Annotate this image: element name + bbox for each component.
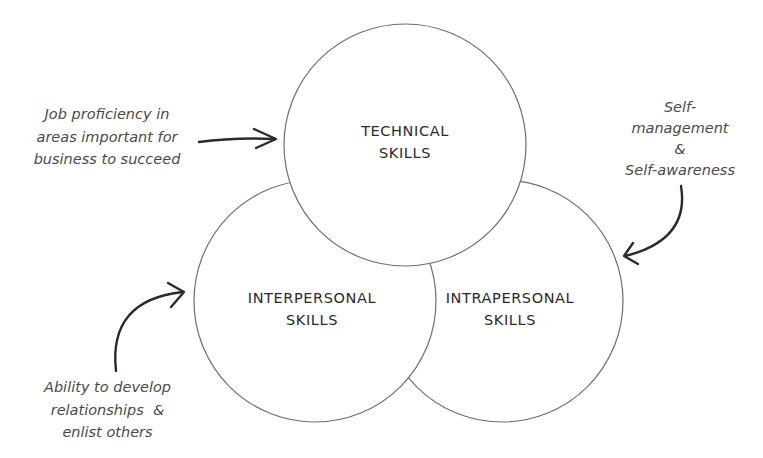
technical-annotation: Job proficiency in areas important for b… [22, 103, 192, 171]
interpersonal-note-line1: Ability to develop [15, 376, 200, 399]
technical-note-line1: Job proficiency in [22, 103, 192, 126]
intrapersonal-annotation: Self- management & Self-awareness [610, 97, 750, 181]
interpersonal-label-line2: SKILLS [222, 309, 402, 331]
interpersonal-note-line2: relationships & [15, 399, 200, 422]
technical-label-line1: TECHNICAL [335, 120, 475, 142]
intrapersonal-skills-label: INTRAPERSONAL SKILLS [420, 287, 600, 331]
intrapersonal-note-line2: management [610, 118, 750, 139]
arrow-to-interpersonal-icon [115, 283, 184, 371]
intrapersonal-note-line3: & [610, 139, 750, 160]
intrapersonal-note-line4: Self-awareness [610, 160, 750, 181]
arrow-to-intrapersonal-icon [624, 186, 682, 264]
intrapersonal-label-line1: INTRAPERSONAL [420, 287, 600, 309]
interpersonal-label-line1: INTERPERSONAL [222, 287, 402, 309]
technical-note-line2: areas important for [22, 126, 192, 149]
technical-label-line2: SKILLS [335, 142, 475, 164]
interpersonal-annotation: Ability to develop relationships & enlis… [15, 376, 200, 444]
technical-skills-label: TECHNICAL SKILLS [335, 120, 475, 164]
arrow-to-technical-icon [199, 129, 276, 148]
intrapersonal-label-line2: SKILLS [420, 309, 600, 331]
intrapersonal-note-line1: Self- [610, 97, 750, 118]
technical-note-line3: business to succeed [22, 148, 192, 171]
interpersonal-note-line3: enlist others [15, 421, 200, 444]
interpersonal-skills-label: INTERPERSONAL SKILLS [222, 287, 402, 331]
